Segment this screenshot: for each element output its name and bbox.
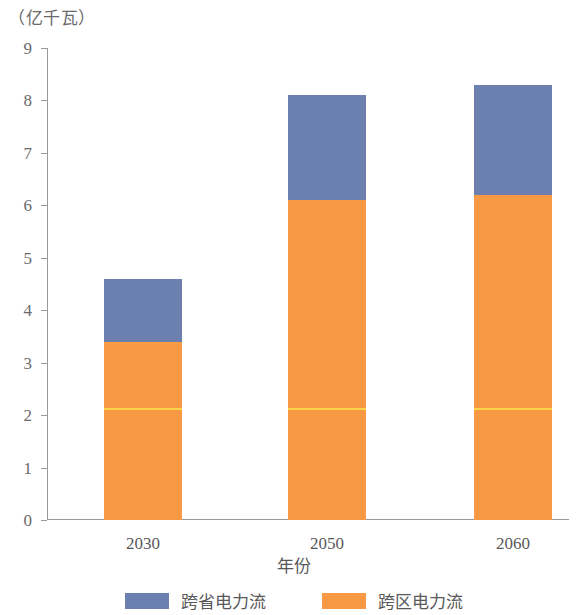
- y-axis-tick-label: 2: [24, 407, 33, 424]
- x-axis-category-label: 2030: [126, 534, 160, 554]
- y-axis-tick: 3: [41, 363, 47, 364]
- bar-segment-cross-region[interactable]: [288, 200, 366, 520]
- legend-label: 跨区电力流: [378, 588, 463, 613]
- legend-swatch: [125, 593, 169, 609]
- bar-inner-marker-line: [474, 408, 552, 410]
- bar-segment-cross-region[interactable]: [474, 195, 552, 520]
- legend-item[interactable]: 跨省电力流: [125, 588, 266, 613]
- y-axis-tick: 1: [41, 468, 47, 469]
- y-axis-tick: 9: [41, 48, 47, 49]
- y-axis-line: [47, 48, 48, 520]
- bar-segment-cross-province[interactable]: [104, 279, 182, 342]
- y-axis-tick-label: 4: [24, 302, 33, 319]
- bar-inner-marker-line: [104, 408, 182, 410]
- bar-segment-cross-region[interactable]: [104, 342, 182, 520]
- y-axis-tick-label: 7: [24, 144, 33, 161]
- legend-item[interactable]: 跨区电力流: [322, 588, 463, 613]
- y-axis-tick-label: 0: [24, 512, 33, 529]
- y-axis-tick-label: 9: [24, 40, 33, 57]
- bar-group[interactable]: 2030: [104, 279, 182, 520]
- y-axis-tick-label: 5: [24, 249, 33, 266]
- y-axis-tick: 4: [41, 310, 47, 311]
- plot-area: 0123456789 203020502060: [47, 48, 569, 520]
- y-axis-tick-label: 3: [24, 354, 33, 371]
- x-axis-category-label: 2060: [496, 534, 530, 554]
- stacked-bar-chart: （亿千瓦） 0123456789 203020502060 年份 跨省电力流跨区…: [0, 0, 587, 615]
- bar-segment-cross-province[interactable]: [288, 95, 366, 200]
- y-axis-tick: 8: [41, 100, 47, 101]
- bar-inner-marker-line: [288, 408, 366, 410]
- x-axis-category-label: 2050: [310, 534, 344, 554]
- y-axis-tick: 5: [41, 258, 47, 259]
- y-axis-tick: 0: [41, 520, 47, 521]
- bar-group[interactable]: 2050: [288, 95, 366, 520]
- y-axis-unit-label: （亿千瓦）: [8, 4, 96, 29]
- y-axis-tick: 6: [41, 205, 47, 206]
- bar-segment-cross-province[interactable]: [474, 85, 552, 195]
- y-axis-tick: 7: [41, 153, 47, 154]
- x-axis-title: 年份: [0, 552, 587, 577]
- y-axis-tick: 2: [41, 415, 47, 416]
- legend-label: 跨省电力流: [181, 588, 266, 613]
- legend-swatch: [322, 593, 366, 609]
- y-axis-tick-label: 8: [24, 92, 33, 109]
- y-axis-tick-label: 6: [24, 197, 33, 214]
- chart-legend: 跨省电力流跨区电力流: [0, 588, 587, 613]
- bar-group[interactable]: 2060: [474, 85, 552, 520]
- y-axis-tick-label: 1: [24, 459, 33, 476]
